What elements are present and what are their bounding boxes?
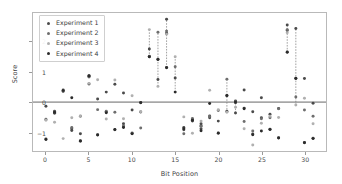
data-point [53, 121, 56, 124]
data-point [277, 137, 280, 140]
data-point [260, 117, 263, 120]
x-tick-label: 25 [258, 156, 266, 163]
data-point [70, 116, 73, 119]
data-point [225, 111, 228, 114]
x-tick-mark [219, 152, 220, 155]
x-tick-label: 5 [86, 156, 90, 163]
legend-item-2[interactable]: Experiment 2 [44, 29, 98, 37]
data-point [70, 126, 73, 129]
data-point [225, 94, 228, 97]
data-point [113, 111, 116, 114]
data-point [208, 102, 211, 105]
data-point [294, 77, 297, 80]
data-point [260, 122, 263, 125]
data-point [268, 128, 271, 131]
data-point [234, 106, 237, 109]
data-point [208, 115, 211, 118]
data-point [243, 89, 246, 92]
data-point [303, 77, 306, 80]
data-point [113, 79, 116, 82]
data-point [165, 66, 168, 69]
data-point [70, 129, 73, 132]
data-point [70, 96, 73, 99]
data-point [139, 110, 142, 113]
data-point [217, 108, 220, 111]
data-point [182, 127, 185, 130]
data-point [156, 78, 159, 81]
data-point [131, 108, 134, 111]
data-point [105, 118, 108, 121]
y-tick-mark [29, 102, 32, 103]
data-point [286, 31, 289, 34]
data-point [96, 134, 99, 137]
y-tick-label: 1 [42, 68, 46, 75]
data-point [165, 18, 168, 21]
y-axis-label: Score [11, 44, 19, 104]
data-point [122, 92, 125, 95]
data-point [53, 111, 56, 114]
data-point [217, 132, 220, 135]
legend-item-3[interactable]: Experiment 3 [44, 39, 98, 47]
legend-label: Experiment 3 [56, 39, 98, 47]
data-point [44, 138, 47, 141]
data-point [148, 55, 151, 58]
x-tick-label: 10 [128, 156, 136, 163]
data-point [96, 108, 99, 111]
x-tick-mark [88, 152, 89, 155]
data-point [174, 65, 177, 68]
y-tick-mark [29, 72, 32, 73]
data-point [303, 108, 306, 111]
legend-label: Experiment 2 [56, 29, 98, 37]
data-point [156, 58, 159, 61]
data-point [277, 116, 280, 119]
data-point [251, 130, 254, 133]
legend-label: Experiment 4 [56, 50, 98, 58]
data-point [234, 101, 237, 104]
y-tick-label: −1 [37, 130, 46, 137]
data-point [251, 133, 254, 136]
data-point [113, 128, 116, 131]
legend-marker-icon [47, 22, 50, 25]
data-point [251, 110, 254, 113]
data-point [79, 114, 82, 117]
data-point [79, 132, 82, 135]
data-point [286, 28, 289, 31]
x-tick-label: 30 [301, 156, 309, 163]
data-point [294, 95, 297, 98]
data-point [165, 30, 168, 33]
data-point [105, 111, 108, 114]
data-point [131, 132, 134, 135]
data-point [182, 132, 185, 135]
legend-item-1[interactable]: Experiment 1 [44, 19, 98, 27]
data-point [174, 55, 177, 58]
data-point [277, 107, 280, 110]
data-point [156, 31, 159, 34]
data-point [243, 107, 246, 110]
data-point [217, 120, 220, 123]
data-point [260, 96, 263, 99]
data-point [303, 141, 306, 144]
data-point [294, 27, 297, 30]
data-point [148, 47, 151, 50]
data-point [122, 126, 125, 129]
x-tick-label: 15 [171, 156, 179, 163]
legend-item-4[interactable]: Experiment 4 [44, 50, 98, 58]
chart-figure: 051015202530−1012 Bit Position Score Exp… [0, 0, 342, 184]
data-point [88, 75, 91, 78]
x-tick-mark [262, 152, 263, 155]
data-point [96, 78, 99, 81]
legend-label: Experiment 1 [56, 19, 98, 27]
legend-marker-icon [47, 52, 50, 55]
data-point [105, 91, 108, 94]
data-point [286, 51, 289, 54]
series-4-points [44, 51, 314, 145]
x-tick-mark [45, 152, 46, 155]
data-point [294, 104, 297, 107]
data-point [243, 127, 246, 130]
data-point [139, 127, 142, 130]
data-point [200, 120, 203, 123]
data-point [113, 83, 116, 86]
data-point [286, 24, 289, 27]
data-point [96, 98, 99, 101]
x-axis-label: Bit Position [32, 170, 327, 178]
